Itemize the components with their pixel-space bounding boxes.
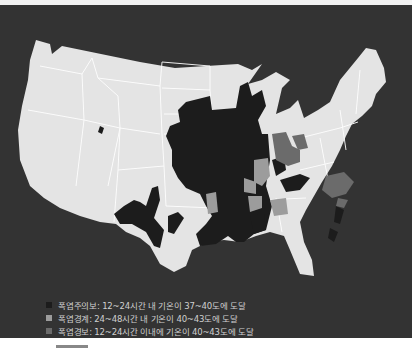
legend-item-watch: 폭염경계: 24~48시간 내 기온이 40~43도에 도달: [46, 312, 253, 324]
advisory-swatch-icon: [46, 302, 52, 308]
map-legend: 폭염주의보: 12~24시간 내 기온이 37~40도에 도달 폭염경계: 24…: [46, 299, 253, 338]
us-heat-map: [0, 5, 412, 338]
caption-divider: [56, 345, 88, 348]
legend-label: 폭염경계: 24~48시간 내 기온이 40~43도에 도달: [58, 312, 238, 324]
legend-item-warning: 폭염경보: 12~24시간 이내에 기온이 40~43도에 도달: [46, 325, 253, 337]
watch-swatch-icon: [46, 315, 52, 321]
legend-item-advisory: 폭염주의보: 12~24시간 내 기온이 37~40도에 도달: [46, 299, 253, 311]
map-panel: 폭염주의보: 12~24시간 내 기온이 37~40도에 도달 폭염경계: 24…: [0, 5, 412, 338]
warning-swatch-icon: [46, 328, 52, 334]
image-caption: [0, 338, 412, 354]
legend-label: 폭염경보: 12~24시간 이내에 기온이 40~43도에 도달: [58, 325, 253, 337]
legend-label: 폭염주의보: 12~24시간 내 기온이 37~40도에 도달: [58, 299, 246, 311]
